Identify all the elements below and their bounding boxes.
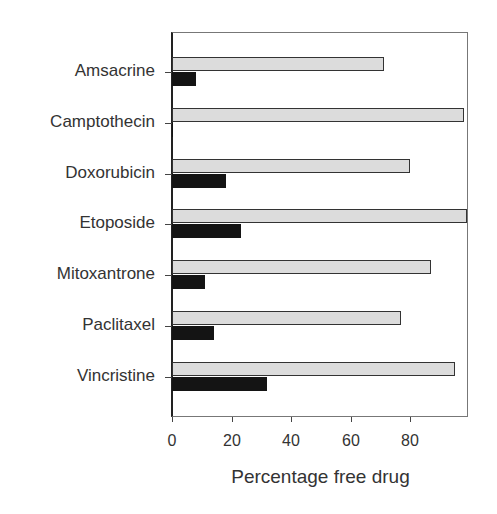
category-label: Camptothecin [50,112,155,132]
y-tick [165,174,172,175]
y-tick [165,326,172,327]
y-tick [165,377,172,378]
x-tick [351,417,352,422]
category-label: Vincristine [77,366,155,386]
category-label: Amsacrine [75,61,155,81]
x-tick [172,417,173,422]
category-label: Paclitaxel [82,315,155,335]
bar-upper [172,362,455,376]
x-tick [291,417,292,422]
bar-upper [172,57,384,71]
bar-upper [172,209,467,223]
bar-lower [172,174,226,188]
bar-lower [172,72,196,86]
x-tick-label: 60 [331,432,371,450]
x-tick-label: 40 [271,432,311,450]
category-label: Etoposide [79,213,155,233]
x-tick-label: 20 [212,432,252,450]
x-tick [410,417,411,422]
y-tick [165,224,172,225]
bar-lower [172,123,173,137]
bar-lower [172,377,267,391]
category-label: Doxorubicin [65,163,155,183]
bar-upper [172,260,431,274]
y-tick [165,123,172,124]
x-tick-label: 80 [390,432,430,450]
x-axis-label: Percentage free drug [172,466,469,488]
x-tick [232,417,233,422]
bar-upper [172,108,464,122]
bar-upper [172,311,401,325]
y-tick [165,275,172,276]
bar-lower [172,326,214,340]
bar-lower [172,275,205,289]
bar-upper [172,159,410,173]
bar-lower [172,224,241,238]
bar-chart: AmsacrineCamptothecinDoxorubicinEtoposid… [0,0,497,514]
y-tick [165,72,172,73]
category-label: Mitoxantrone [57,264,155,284]
x-tick-label: 0 [152,432,192,450]
